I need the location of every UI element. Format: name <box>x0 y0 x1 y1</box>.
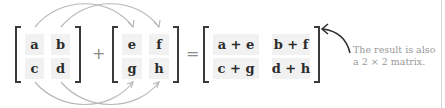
annotation-note: The result is also a 2 × 2 matrix. <box>353 44 438 68</box>
matrix-result-cell-ae: a + e <box>213 34 259 55</box>
matrix-result-right-bracket <box>314 26 320 83</box>
annotation-line-1: The result is also <box>353 44 438 56</box>
matrix-a-cell-d: d <box>51 58 70 79</box>
matrix-addition-diagram: a b c d + e f g h = a + e b + f c + g d … <box>0 0 445 108</box>
matrix-b-cell-h: h <box>149 58 169 79</box>
matrix-a-cell-c: c <box>25 58 44 79</box>
matrix-b-cell-f: f <box>149 34 169 55</box>
matrix-a-right-bracket <box>75 26 81 83</box>
matrix-result-cell-dh: d + h <box>272 58 310 79</box>
matrix-b-right-bracket <box>173 26 179 83</box>
equals-operator: = <box>186 44 199 63</box>
matrix-b-left-bracket <box>112 26 118 83</box>
matrix-a-cell-b: b <box>51 34 70 55</box>
right-edge-divider <box>441 0 442 108</box>
matrix-b-cell-g: g <box>122 58 142 79</box>
plus-operator: + <box>92 44 105 63</box>
matrix-a-left-bracket <box>15 26 21 83</box>
matrix-result-cell-bf: b + f <box>272 34 310 55</box>
annotation-line-2: a 2 × 2 matrix. <box>353 56 438 68</box>
matrix-a-cell-a: a <box>25 34 44 55</box>
matrix-b-cell-e: e <box>122 34 142 55</box>
matrix-result-left-bracket <box>203 26 209 83</box>
matrix-result-cell-cg: c + g <box>213 58 259 79</box>
